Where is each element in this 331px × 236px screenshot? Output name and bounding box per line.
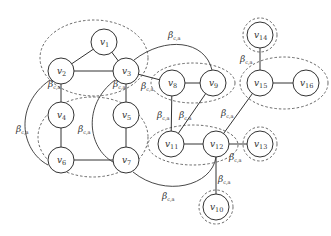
node-v13: v13 (247, 131, 273, 157)
beta-label: βc,a (220, 108, 234, 119)
node-v6: v6 (48, 147, 74, 173)
node-v15: v15 (247, 70, 273, 96)
graph-diagram: v1v2v3v4v5v6v7v8v9v10v11v12v13v14v15v16 … (0, 0, 331, 236)
node-v10: v10 (203, 194, 229, 220)
node-v5: v5 (113, 102, 139, 128)
beta-label: βc,a (167, 30, 181, 41)
beta-label: βc,a (178, 110, 192, 121)
beta-label: βc,a (217, 174, 231, 185)
node-v16: v16 (293, 70, 319, 96)
node-v9: v9 (200, 70, 226, 96)
beta-label: βc,a (156, 110, 170, 121)
node-v1: v1 (91, 29, 117, 55)
beta-label: βc,a (77, 124, 91, 135)
beta-label: βc,a (140, 81, 154, 92)
beta-label: βc,a (239, 54, 253, 65)
edges (61, 35, 306, 207)
node-v12: v12 (203, 131, 229, 157)
arc-v2-v6 (25, 80, 50, 165)
node-v8: v8 (159, 70, 185, 96)
node-v14: v14 (247, 22, 273, 48)
beta-label: βc,a (228, 152, 242, 163)
beta-label: βc,a (15, 124, 29, 135)
arc-v3-v7 (92, 80, 115, 162)
arc-v7-v12 (133, 157, 216, 186)
node-v7: v7 (113, 147, 139, 173)
nodes: v1v2v3v4v5v6v7v8v9v10v11v12v13v14v15v16 (48, 22, 319, 220)
beta-label: βc,a (161, 191, 175, 202)
arc-v3-v9 (134, 44, 212, 70)
node-v4: v4 (48, 102, 74, 128)
node-v11: v11 (158, 131, 184, 157)
